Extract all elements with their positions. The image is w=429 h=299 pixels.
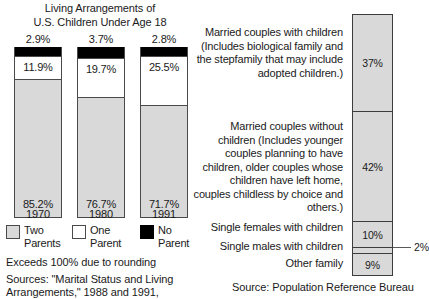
segment-two-parents-1980: 76.7% bbox=[78, 98, 124, 217]
segment-other-family: 9% bbox=[353, 254, 392, 275]
callout-2pct-value: 2% bbox=[414, 241, 429, 253]
bar-1970: 11.9% 85.2% bbox=[14, 47, 62, 218]
one-parent-value-1970: 11.9% bbox=[15, 61, 61, 73]
segment-one-parent-1991: 25.5% bbox=[141, 56, 187, 106]
axis-label-1970: 1970 bbox=[14, 208, 62, 220]
left-chart-title-line2: U.S. Children Under Age 18 bbox=[0, 16, 200, 30]
one-parent-value-1991: 25.5% bbox=[141, 61, 187, 73]
legend: Two Parents One Parent No Parent bbox=[6, 224, 211, 249]
label-single-females-with-children: Single females with children bbox=[191, 221, 343, 235]
legend-label-two-parents-line1: Two bbox=[24, 224, 44, 236]
axis-label-1980: 1980 bbox=[77, 208, 125, 220]
label-married-couples-without-children: Married couples without children (Includ… bbox=[191, 120, 343, 215]
bar-1980: 19.7% 76.7% bbox=[77, 47, 125, 218]
one-parent-value-1980: 19.7% bbox=[78, 63, 124, 75]
legend-label-two-parents: Two Parents bbox=[24, 224, 61, 249]
stacked-column-1980: 3.7% 19.7% 76.7% bbox=[77, 33, 125, 218]
sources-note-line2: Arrangements," 1988 and 1991, bbox=[6, 286, 214, 299]
stacked-column-1970: 2.9% 11.9% 85.2% bbox=[14, 33, 62, 218]
right-chart-source: Source: Population Reference Bureau bbox=[232, 281, 414, 293]
left-chart-title-line1: Living Arrangements of bbox=[0, 2, 200, 16]
sources-note: Sources: "Marital Status and Living Arra… bbox=[6, 273, 214, 299]
legend-label-one-parent-line2: Parent bbox=[90, 237, 121, 249]
axis-label-1991: 1991 bbox=[140, 208, 188, 220]
segment-married-without-children: 42% bbox=[353, 112, 392, 222]
segment-two-parents-1970: 85.2% bbox=[15, 80, 61, 217]
stacked-column-1991: 2.8% 25.5% 71.7% bbox=[140, 33, 188, 218]
label-other-family: Other family bbox=[191, 257, 343, 271]
left-chart-title: Living Arrangements of U.S. Children Und… bbox=[0, 2, 200, 29]
legend-swatch-two-parents-icon bbox=[6, 225, 20, 239]
family-composition-chart: Married couples with children (Includes … bbox=[196, 0, 429, 297]
sources-note-line1: Sources: "Marital Status and Living bbox=[6, 273, 214, 286]
bar-1991: 25.5% 71.7% bbox=[140, 47, 188, 218]
value-married-without-children: 42% bbox=[353, 161, 392, 173]
legend-swatch-one-parent-icon bbox=[72, 225, 86, 239]
no-parent-value-1991: 2.8% bbox=[140, 33, 188, 47]
no-parent-value-1980: 3.7% bbox=[77, 33, 125, 47]
callout-leader-line bbox=[393, 247, 411, 248]
legend-label-no-parent-line1: No bbox=[158, 224, 172, 236]
legend-label-no-parent: No Parent bbox=[158, 224, 189, 249]
segment-two-parents-1991: 71.7% bbox=[141, 106, 187, 217]
legend-label-two-parents-line2: Parents bbox=[24, 237, 61, 249]
value-married-with-children: 37% bbox=[353, 57, 392, 69]
value-single-females-with-children: 10% bbox=[353, 229, 392, 241]
label-married-couples-with-children: Married couples with children (Includes … bbox=[193, 26, 343, 80]
legend-item-two-parents: Two Parents bbox=[6, 224, 72, 249]
segment-one-parent-1970: 11.9% bbox=[15, 56, 61, 80]
segment-no-parent-1991 bbox=[141, 47, 187, 56]
segment-no-parent-1970 bbox=[15, 47, 61, 56]
legend-label-no-parent-line2: Parent bbox=[158, 237, 189, 249]
callout-single-males-2pct: 2% bbox=[393, 241, 429, 253]
family-composition-stacked-bar: 37% 42% 10% 9% bbox=[352, 14, 393, 276]
label-single-males-with-children: Single males with children bbox=[191, 240, 343, 254]
legend-swatch-no-parent-icon bbox=[140, 225, 154, 239]
value-other-family: 9% bbox=[353, 259, 392, 271]
segment-no-parent-1980 bbox=[78, 47, 124, 58]
legend-label-one-parent: One Parent bbox=[90, 224, 121, 249]
segment-single-females-with-children: 10% bbox=[353, 222, 392, 248]
segment-one-parent-1980: 19.7% bbox=[78, 58, 124, 98]
legend-item-one-parent: One Parent bbox=[72, 224, 140, 249]
rounding-note: Exceeds 100% due to rounding bbox=[6, 256, 214, 269]
segment-married-with-children: 37% bbox=[353, 15, 392, 112]
legend-label-one-parent-line1: One bbox=[90, 224, 110, 236]
children-living-arrangements-chart: Living Arrangements of U.S. Children Und… bbox=[0, 0, 214, 297]
no-parent-value-1970: 2.9% bbox=[14, 33, 62, 47]
